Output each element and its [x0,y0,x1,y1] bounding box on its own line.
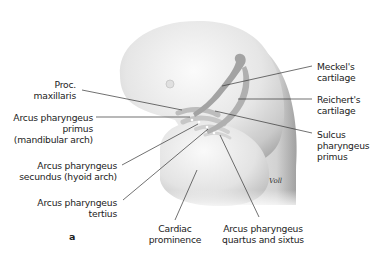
label-line: pharyngeus [317,140,387,151]
label-arcus-pharyngeus-tertius: Arcus pharyngeus tertius [7,197,117,219]
label-arcus-pharyngeus-quartus: Arcus pharyngeus quartus and sixtus [222,223,304,245]
label-proc-maxillaris: Proc. maxillaris [0,79,76,101]
label-line: Arcus pharyngeus [7,197,117,208]
label-meckels-cartilage: Meckel's cartilage [317,61,387,83]
optic-vesicle [166,80,174,88]
label-arcus-pharyngeus-secundus: Arcus pharyngeus secundus (hyoid arch) [0,160,117,182]
label-sulcus-pharyngeus-primus: Sulcus pharyngeus primus [317,129,387,162]
figure-letter: a [69,231,75,242]
label-line: primus [317,151,387,162]
label-line: tertius [7,208,117,219]
label-line: primus [0,123,93,134]
label-line: Reichert's [317,94,387,105]
label-line: prominence [143,234,207,245]
label-line: maxillaris [0,90,76,101]
embryo-pharyngeal-arches-diagram: Proc. maxillaris Arcus pharyngeus primus… [0,0,387,258]
label-line: Arcus pharyngeus [0,160,117,171]
label-line: cartilage [317,105,387,116]
label-line: Sulcus [317,129,387,140]
label-arcus-pharyngeus-primus: Arcus pharyngeus primus (mandibular arch… [0,112,93,145]
label-line: Meckel's [317,61,387,72]
label-line: Arcus pharyngeus [222,223,304,234]
label-line: Proc. [0,79,76,90]
label-line: Arcus pharyngeus [0,112,93,123]
label-line: cartilage [317,72,387,83]
label-cardiac-prominence: Cardiac prominence [143,223,207,245]
label-line: quartus and sixtus [222,234,304,245]
label-reicherts-cartilage: Reichert's cartilage [317,94,387,116]
illustrator-signature: Voll [269,177,282,185]
label-line: (mandibular arch) [0,134,93,145]
label-line: secundus (hyoid arch) [0,171,117,182]
label-line: Cardiac [143,223,207,234]
